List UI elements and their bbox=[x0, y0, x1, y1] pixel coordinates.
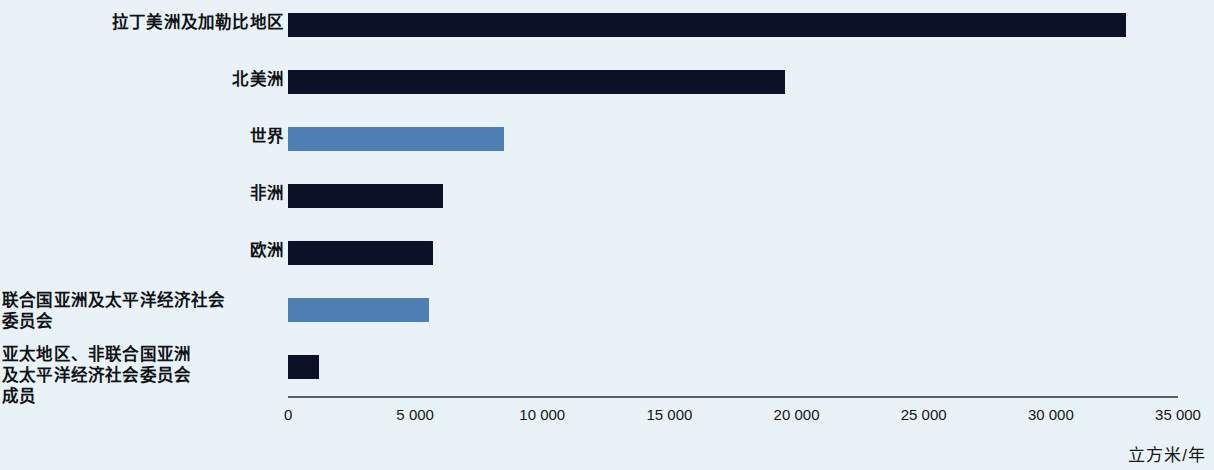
x-axis-tick-label: 5 000 bbox=[396, 406, 434, 423]
x-axis-tick-label: 15 000 bbox=[646, 406, 692, 423]
bar-category-label: 非洲 bbox=[0, 183, 284, 204]
bar-segment bbox=[288, 184, 443, 208]
bar-segment bbox=[288, 241, 433, 265]
x-axis-tick-label: 10 000 bbox=[519, 406, 565, 423]
bar-row: 欧洲 bbox=[0, 228, 1214, 285]
bar-segment bbox=[288, 355, 319, 379]
bar-category-label: 世界 bbox=[0, 126, 284, 147]
bar-category-label: 拉丁美洲及加勒比地区 bbox=[0, 12, 284, 33]
bar-segment bbox=[288, 13, 1126, 37]
bar-row: 北美洲 bbox=[0, 57, 1214, 114]
bar-category-label: 欧洲 bbox=[0, 240, 284, 261]
x-axis-unit-label: 立方米/年 bbox=[1128, 441, 1206, 466]
bar-category-label: 亚太地区、非联合国亚洲 及太平洋经济社会委员会 成员 bbox=[2, 344, 284, 407]
x-axis-tick-label: 0 bbox=[284, 406, 292, 423]
bar-segment bbox=[288, 70, 785, 94]
bar-chart: 拉丁美洲及加勒比地区 北美洲 世界 非洲 欧洲 联合国亚洲及太平洋经济社会 委员… bbox=[0, 0, 1214, 470]
x-axis-tick-label: 30 000 bbox=[1028, 406, 1074, 423]
x-axis-line bbox=[288, 396, 1178, 398]
bar-category-label: 联合国亚洲及太平洋经济社会 委员会 bbox=[2, 290, 284, 332]
plot-area: 拉丁美洲及加勒比地区 北美洲 世界 非洲 欧洲 联合国亚洲及太平洋经济社会 委员… bbox=[0, 0, 1214, 470]
bar-row: 非洲 bbox=[0, 171, 1214, 228]
x-axis-tick-label: 35 000 bbox=[1155, 406, 1201, 423]
bar-row: 拉丁美洲及加勒比地区 bbox=[0, 0, 1214, 57]
x-axis-tick-label: 25 000 bbox=[901, 406, 947, 423]
bar-row: 联合国亚洲及太平洋经济社会 委员会 bbox=[0, 285, 1214, 342]
bar-category-label: 北美洲 bbox=[0, 69, 284, 90]
bar-row: 亚太地区、非联合国亚洲 及太平洋经济社会委员会 成员 bbox=[0, 342, 1214, 399]
x-axis-tick-label: 20 000 bbox=[774, 406, 820, 423]
bar-segment bbox=[288, 127, 504, 151]
bar-segment bbox=[288, 298, 429, 322]
bar-row: 世界 bbox=[0, 114, 1214, 171]
